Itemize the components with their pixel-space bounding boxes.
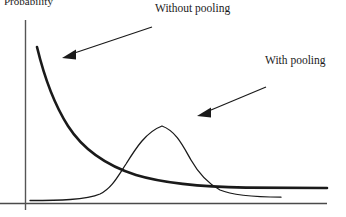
arrow-without-pooling-head: [62, 50, 76, 60]
arrow-with-pooling: [197, 87, 266, 118]
arrow-without-pooling: [62, 27, 152, 60]
arrow-with-pooling-head: [197, 108, 211, 118]
curve-with-pooling: [30, 126, 281, 201]
curve-without-pooling: [37, 47, 327, 188]
plot-canvas: [0, 0, 346, 217]
probability-figure: Probability Without pooling With pooling: [0, 0, 346, 217]
arrow-without-pooling-shaft: [70, 27, 152, 55]
annotation-label-without-pooling: Without pooling: [155, 3, 230, 15]
annotation-label-with-pooling: With pooling: [265, 55, 326, 67]
arrow-with-pooling-shaft: [205, 87, 266, 113]
y-axis-title: Probability: [4, 0, 53, 7]
